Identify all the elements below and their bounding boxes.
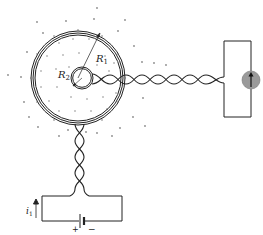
toroid-induction-diagram: R1 R2 + − i1 xyxy=(0,0,263,235)
galvanometer-icon xyxy=(242,71,260,89)
current-arrow-icon xyxy=(34,199,39,218)
label-r2: R2 xyxy=(57,69,70,82)
field-crosses-inside xyxy=(40,38,117,112)
battery-minus-label: − xyxy=(88,224,96,234)
label-r1: R1 xyxy=(95,53,108,66)
label-i1: i1 xyxy=(26,206,33,217)
twisted-pair-bottom xyxy=(70,124,89,196)
twisted-pair-right xyxy=(92,74,224,84)
battery-plus-label: + xyxy=(72,225,79,234)
battery-icon xyxy=(80,214,84,228)
radius-r2-arrow xyxy=(73,78,82,86)
battery-circuit xyxy=(42,196,122,221)
